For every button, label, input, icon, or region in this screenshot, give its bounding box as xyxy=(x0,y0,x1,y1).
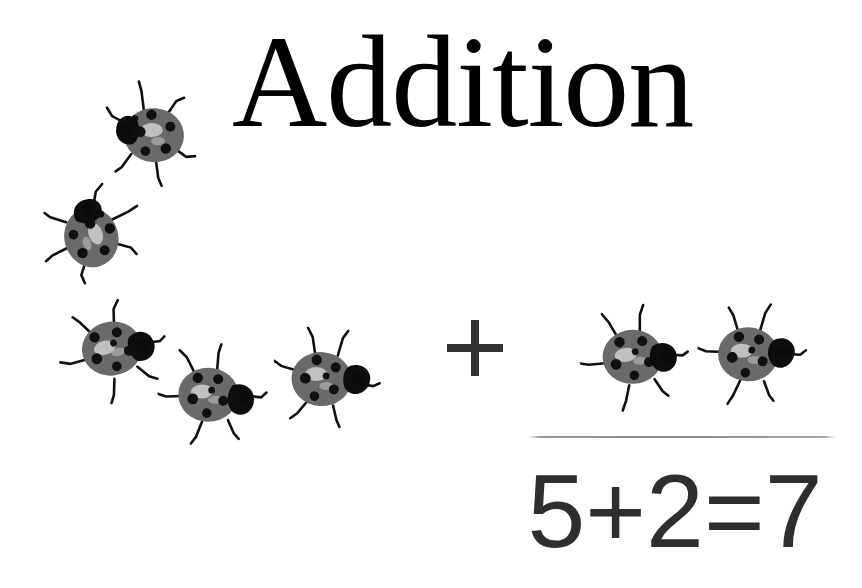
ladybug-icon xyxy=(264,315,391,438)
ladybug-icon xyxy=(566,288,703,422)
plus-icon xyxy=(447,318,503,378)
ladybug-5 xyxy=(264,315,391,438)
ladybug-4 xyxy=(151,333,275,452)
sum-divider-line xyxy=(528,436,836,438)
worksheet-canvas: Addition xyxy=(0,0,862,588)
ladybug-icon xyxy=(36,177,147,292)
ladybug-2 xyxy=(36,177,147,292)
ladybug-6 xyxy=(566,288,703,422)
plus-vertical-bar xyxy=(471,320,479,376)
equation-text: 5+2=7 xyxy=(520,455,830,567)
ladybug-icon xyxy=(151,333,275,452)
ladybug-7 xyxy=(694,296,811,408)
ladybug-icon xyxy=(694,296,811,408)
page-title: Addition xyxy=(232,16,693,148)
